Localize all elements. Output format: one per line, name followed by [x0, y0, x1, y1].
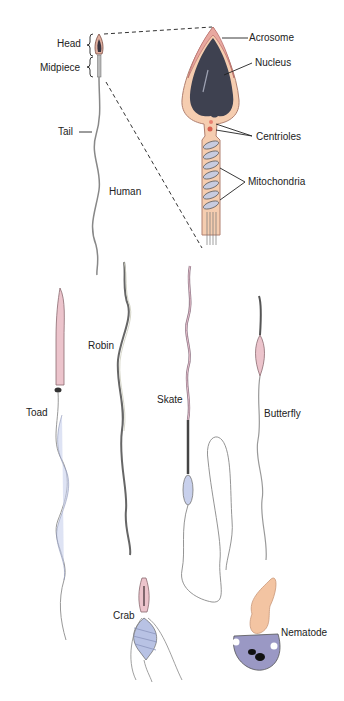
label-nucleus: Nucleus — [255, 57, 291, 68]
toad-sperm — [55, 288, 69, 640]
label-midpiece: Midpiece — [40, 62, 80, 73]
label-skate: Skate — [157, 394, 183, 405]
label-acrosome: Acrosome — [249, 32, 294, 43]
crab-sperm — [131, 578, 182, 682]
skate-sperm — [182, 266, 233, 602]
label-centrioles: Centrioles — [256, 131, 301, 142]
label-human: Human — [109, 186, 141, 197]
label-toad: Toad — [26, 407, 48, 418]
butterfly-sperm — [256, 296, 267, 560]
label-robin: Robin — [88, 340, 114, 351]
human-sperm-small — [93, 34, 103, 275]
label-tail: Tail — [58, 126, 73, 137]
human-sperm-detail — [182, 27, 239, 245]
label-head: Head — [57, 38, 81, 49]
label-nematode: Nematode — [281, 627, 327, 638]
nucleus-shape — [190, 38, 233, 118]
label-mitochondria: Mitochondria — [248, 176, 305, 187]
diagram-artwork — [0, 0, 344, 701]
robin-sperm — [118, 262, 131, 555]
label-butterfly: Butterfly — [264, 408, 301, 419]
nematode-sperm — [233, 578, 281, 670]
label-crab: Crab — [113, 610, 135, 621]
braces — [87, 34, 93, 77]
